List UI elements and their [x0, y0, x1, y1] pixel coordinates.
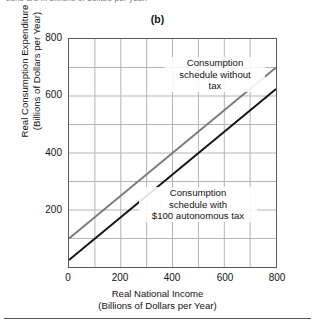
series-line-with-tax [69, 89, 276, 260]
y-tick-label-200: 200 [18, 205, 62, 215]
x-tick-label-200: 200 [100, 273, 140, 283]
annotation-with-tax: Consumption schedule with $100 autonomou… [139, 187, 257, 222]
x-axis-label-line1: Real National Income [0, 288, 315, 300]
x-tick-label-600: 600 [205, 273, 245, 283]
bottom-divider [4, 318, 311, 319]
annotation-with-tax-line3: $100 autonomous tax [139, 210, 257, 222]
annotation-without-tax-line1: Consumption [165, 57, 265, 69]
x-tick-label-800: 800 [257, 273, 297, 283]
x-axis-label: Real National Income (Billions of Dollar… [0, 288, 315, 312]
x-tick-label-0: 0 [48, 273, 88, 283]
annotation-without-tax: Consumption schedule without tax [165, 57, 265, 92]
y-axis-label: Real Consumption Expenditure (Billions o… [19, 0, 45, 166]
panel-title: (b) [0, 13, 315, 25]
annotation-without-tax-line2: schedule without [165, 69, 265, 81]
x-axis-label-line2: (Billions of Dollars per Year) [0, 300, 315, 312]
plot-area: Consumption schedule without tax Consump… [68, 38, 277, 268]
y-axis-label-line2: (Billions of Dollars per Year) [31, 0, 43, 166]
y-axis-label-line1: Real Consumption Expenditure [19, 0, 31, 166]
annotation-with-tax-line1: Consumption [139, 187, 257, 199]
annotation-with-tax-line2: schedule with [139, 199, 257, 211]
x-tick-label-400: 400 [152, 273, 192, 283]
figure-panel-b: (b) 800 600 400 200 0 200 400 600 800 Re… [0, 0, 315, 325]
annotation-without-tax-line3: tax [165, 80, 265, 92]
